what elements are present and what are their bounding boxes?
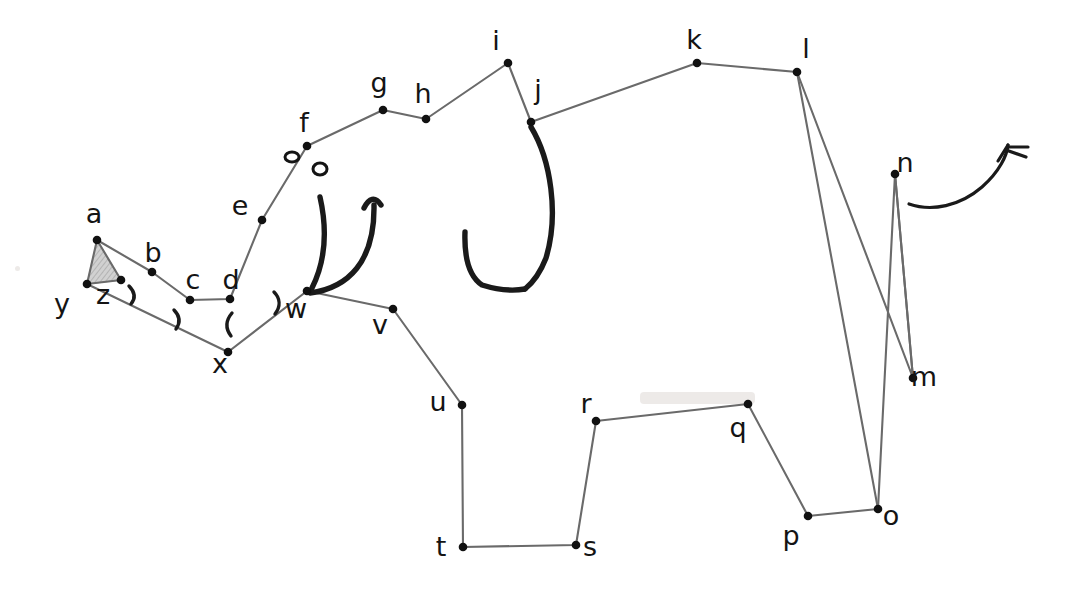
vertex-dot-j[interactable] (527, 118, 536, 127)
vertex-dot-l[interactable] (793, 68, 802, 77)
vertex-dot-r[interactable] (592, 417, 601, 426)
vertex-label-h: h (414, 78, 431, 109)
vertex-label-g: g (370, 67, 387, 98)
vertex-dot-i[interactable] (504, 59, 513, 68)
vertex-label-z: z (96, 279, 110, 310)
vertex-label-s: s (583, 531, 597, 562)
vertex-dot-y[interactable] (83, 280, 92, 289)
vertex-dot-b[interactable] (148, 268, 157, 277)
vertex-label-i: i (492, 25, 500, 56)
vertex-dot-g[interactable] (379, 106, 388, 115)
vertex-label-w: w (285, 293, 307, 324)
vertex-dot-a[interactable] (93, 236, 102, 245)
vertex-label-x: x (212, 348, 228, 379)
elephant-line-drawing: abcdefghijklmnopqrstuvwxyz (0, 0, 1067, 599)
vertex-label-f: f (299, 107, 310, 138)
vertex-dot-f[interactable] (303, 142, 312, 151)
vertex-label-t: t (436, 531, 447, 562)
vertex-label-a: a (86, 198, 103, 229)
vertex-dot-h[interactable] (422, 115, 431, 124)
vertex-label-j: j (533, 74, 542, 105)
smudge-paper (15, 266, 20, 271)
vertex-label-p: p (782, 520, 799, 551)
vertex-dot-s[interactable] (572, 541, 581, 550)
vertex-label-l: l (802, 33, 810, 64)
vertex-dot-v[interactable] (389, 305, 398, 314)
vertex-label-c: c (186, 264, 201, 295)
vertex-label-n: n (896, 147, 913, 178)
vertex-label-v: v (372, 309, 388, 340)
vertex-label-q: q (729, 412, 746, 443)
vertex-dot-z[interactable] (117, 276, 126, 285)
vertex-label-e: e (232, 190, 249, 221)
vertex-dot-k[interactable] (693, 59, 702, 68)
vertex-label-k: k (686, 24, 702, 55)
vertex-label-u: u (429, 386, 446, 417)
vertex-dot-o[interactable] (874, 505, 883, 514)
vertex-dot-q[interactable] (744, 400, 753, 409)
drawing-canvas: abcdefghijklmnopqrstuvwxyz (0, 0, 1067, 599)
vertex-label-y: y (54, 288, 70, 319)
vertex-dot-c[interactable] (186, 296, 195, 305)
vertex-label-m: m (911, 361, 937, 392)
vertex-label-d: d (222, 264, 239, 295)
vertex-label-b: b (144, 237, 161, 268)
vertex-dot-u[interactable] (458, 401, 467, 410)
smudge-leg-top (640, 392, 755, 404)
vertex-dot-e[interactable] (258, 216, 267, 225)
vertex-dot-p[interactable] (804, 512, 813, 521)
vertex-dot-d[interactable] (226, 295, 235, 304)
vertex-dot-t[interactable] (459, 543, 468, 552)
vertex-label-r: r (580, 388, 592, 419)
vertex-label-o: o (883, 500, 900, 531)
